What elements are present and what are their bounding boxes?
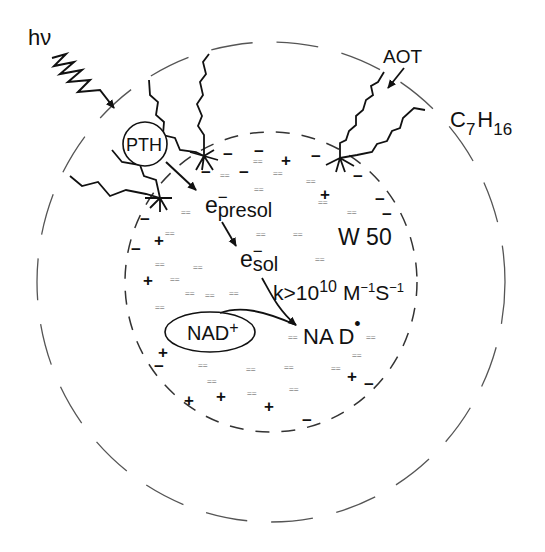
svg-text:+: + [184,391,194,410]
svg-text:==: == [185,289,195,298]
water-molecule-markers: == == == == == == == == == == == == == =… [155,157,376,398]
heptane-label: C7H16 [450,107,512,139]
svg-text:==: == [289,385,299,394]
presol-to-sol-arrow [222,222,236,246]
pth-label: PTH [126,135,162,155]
svg-text:==: == [198,361,208,370]
pth-to-presol-arrow [166,162,196,190]
light-arrow-icon [52,54,114,108]
svg-text:+: + [347,367,357,386]
reverse-micelle-diagram: hν AOT C7H16 PTH e−presol e−sol W 50 k>1 [0,0,545,552]
svg-text:−: − [239,163,249,182]
svg-text:+: + [216,387,226,406]
svg-text:==: == [366,333,376,342]
svg-text:−: − [131,240,141,259]
outer-micelle-boundary [37,42,505,522]
svg-text:−: − [382,205,392,224]
svg-text:==: == [207,377,217,386]
svg-text:+: + [154,231,164,250]
nad-radical-label: NA D• [303,314,361,349]
svg-text:==: == [246,365,256,374]
nad-plus-label: NAD+ [187,319,239,344]
svg-text:==: == [155,303,165,312]
svg-text:==: == [229,289,239,298]
svg-text:==: == [352,351,362,360]
svg-text:−: − [223,145,233,164]
svg-text:−: − [201,163,211,182]
svg-text:==: == [293,230,303,239]
svg-text:==: == [155,260,165,269]
svg-text:==: == [256,230,266,239]
light-label: hν [28,25,51,50]
svg-text:==: == [220,171,230,180]
aot-label: AOT [383,46,422,67]
svg-text:+: + [281,151,291,170]
svg-text:==: == [254,185,264,194]
svg-text:−: − [154,357,164,376]
svg-text:==: == [288,333,298,342]
aot-pointer-arrow [388,68,404,88]
svg-text:+: + [264,397,274,416]
solvated-electron-label: e−sol [240,242,278,275]
rate-constant-label: k>1010M−1S−1 [273,278,404,304]
svg-text:==: == [315,255,325,264]
svg-text:==: == [306,177,316,186]
svg-text:==: == [170,275,180,284]
svg-text:==: == [247,389,257,398]
svg-text:−: − [353,167,363,186]
svg-text:==: == [273,169,283,178]
aot-surfactant-chains [70,54,425,212]
svg-text:−: − [302,411,312,430]
svg-text:==: == [165,229,175,238]
svg-text:==: == [331,364,341,373]
svg-text:−: − [311,147,321,166]
svg-text:+: + [320,185,330,204]
svg-text:−: − [254,142,264,161]
svg-text:==: == [193,263,203,272]
water-pool-label: W 50 [338,224,392,250]
svg-text:==: == [347,208,357,217]
svg-text:−: − [140,210,150,229]
svg-text:==: == [284,363,294,372]
svg-text:==: == [205,291,215,300]
svg-text:−: − [364,375,374,394]
svg-text:+: + [143,271,153,290]
svg-text:==: == [181,208,191,217]
